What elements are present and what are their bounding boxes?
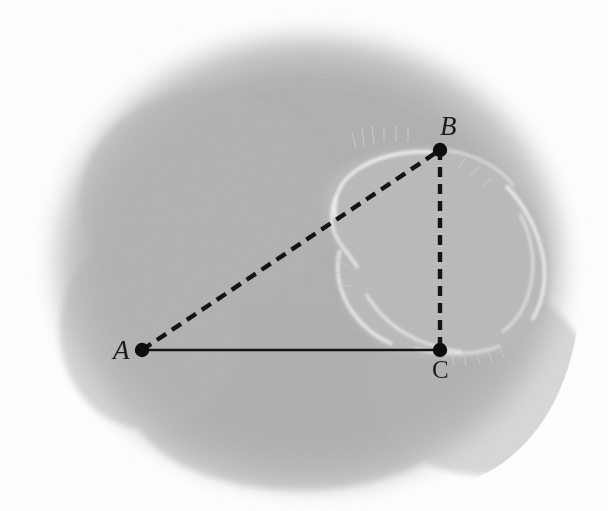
vertex-a-dot	[135, 343, 149, 357]
vertex-b-dot	[433, 143, 447, 157]
vertex-label-b: B	[440, 113, 457, 140]
scan-image	[0, 0, 608, 511]
vertex-label-a: A	[113, 337, 130, 364]
vertex-label-c: C	[432, 357, 449, 382]
film-grain	[0, 0, 608, 511]
figure-canvas: A B C	[0, 0, 608, 511]
